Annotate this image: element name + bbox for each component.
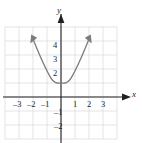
x-tick-label-3: 3 [101,100,105,109]
coordinate-plane [0,0,142,143]
y-tick-label-4: 4 [53,41,57,50]
x-tick-label--2: –2 [27,100,36,109]
x-tick-label-1: 1 [73,100,77,109]
y-tick-label-2: 2 [53,69,57,78]
axis-lines [3,14,123,143]
y-axis-label: y [57,6,61,15]
x-tick-label--1: –1 [41,100,50,109]
graph-figure: –3 –2 –1 1 2 3 4 3 2 –1 –2 y x [0,0,142,143]
y-tick-label-3: 3 [53,55,57,64]
x-axis-label: x [132,90,136,99]
x-tick-label--3: –3 [13,100,22,109]
y-tick-label--1: –1 [54,108,63,117]
x-tick-label-2: 2 [87,100,91,109]
y-axis-arrowhead [58,14,65,23]
x-axis-arrowhead [122,94,131,101]
y-tick-label--2: –2 [54,122,63,131]
